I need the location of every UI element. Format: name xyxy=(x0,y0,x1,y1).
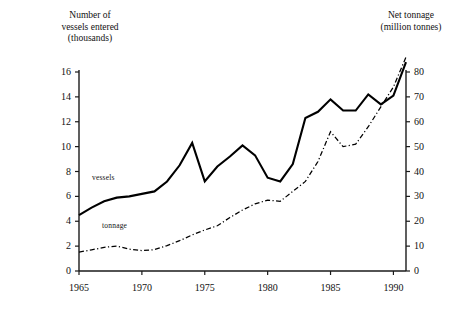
axis-lines xyxy=(79,70,406,271)
series-line-tonnage xyxy=(79,57,406,252)
right-tick-label-70: 70 xyxy=(414,92,440,102)
left-tick-label-8: 8 xyxy=(45,167,71,177)
right-tick-label-30: 30 xyxy=(414,191,440,201)
left-tick-label-2: 2 xyxy=(45,241,71,251)
tick-marks xyxy=(75,72,410,275)
right-tick-label-80: 80 xyxy=(414,67,440,77)
left-tick-label-12: 12 xyxy=(45,117,71,127)
left-tick-label-14: 14 xyxy=(45,92,71,102)
left-tick-label-6: 6 xyxy=(45,191,71,201)
series-line-vessels xyxy=(79,62,406,215)
series-annotation-tonnage: tonnage xyxy=(102,222,127,230)
right-tick-label-50: 50 xyxy=(414,142,440,152)
left-tick-label-0: 0 xyxy=(45,266,71,276)
right-tick-label-0: 0 xyxy=(414,266,440,276)
left-tick-label-16: 16 xyxy=(45,67,71,77)
x-tick-label-1965: 1965 xyxy=(59,283,99,293)
x-tick-label-1970: 1970 xyxy=(122,283,162,293)
right-tick-label-40: 40 xyxy=(414,167,440,177)
x-tick-label-1990: 1990 xyxy=(373,283,413,293)
left-tick-label-4: 4 xyxy=(45,216,71,226)
right-tick-label-10: 10 xyxy=(414,241,440,251)
right-tick-label-20: 20 xyxy=(414,216,440,226)
left-tick-label-10: 10 xyxy=(45,142,71,152)
chart-plot xyxy=(0,0,476,310)
x-tick-label-1985: 1985 xyxy=(311,283,351,293)
series-annotation-vessels: vessels xyxy=(92,174,115,182)
right-tick-label-60: 60 xyxy=(414,117,440,127)
chart-container: Number of vessels entered (thousands) Ne… xyxy=(0,0,476,310)
x-tick-label-1975: 1975 xyxy=(185,283,225,293)
x-tick-label-1980: 1980 xyxy=(248,283,288,293)
